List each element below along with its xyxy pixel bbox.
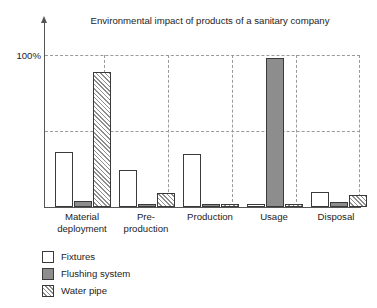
bar-material-deployment-water-pipe xyxy=(93,72,111,207)
category-label-production: Production xyxy=(174,211,246,223)
category-label-line: Pre- xyxy=(110,211,182,223)
legend-item-fixtures: Fixtures xyxy=(42,248,130,265)
category-label-line: Production xyxy=(174,211,246,223)
bar-production-water-pipe xyxy=(221,204,239,207)
y-tick-label-100: 100% xyxy=(16,50,41,61)
bar-production-fixtures xyxy=(183,154,201,207)
chart-legend: Fixtures Flushing system Water pipe xyxy=(42,248,130,299)
bar-disposal-flushing-system xyxy=(330,202,348,207)
legend-label-fixtures: Fixtures xyxy=(61,251,95,262)
category-label-line: Disposal xyxy=(300,211,372,223)
bar-pre-production-water-pipe xyxy=(157,193,175,207)
bar-material-deployment-fixtures xyxy=(55,152,73,207)
legend-swatch-water-pipe-icon xyxy=(42,285,54,297)
bar-material-deployment-flushing-system xyxy=(74,201,92,207)
legend-item-flushing-system: Flushing system xyxy=(42,265,130,282)
bar-disposal-water-pipe xyxy=(349,195,367,207)
legend-label-flushing-system: Flushing system xyxy=(61,268,130,279)
chart-title: Environmental impact of products of a sa… xyxy=(60,15,360,27)
legend-label-water-pipe: Water pipe xyxy=(61,285,107,296)
bar-usage-fixtures xyxy=(247,204,265,207)
bar-usage-water-pipe xyxy=(285,204,303,207)
bars-layer xyxy=(45,50,360,207)
legend-item-water-pipe: Water pipe xyxy=(42,282,130,299)
category-label-disposal: Disposal xyxy=(300,211,372,223)
chart-figure: Environmental impact of products of a sa… xyxy=(0,0,377,308)
x-axis-line xyxy=(44,207,361,208)
category-label-material-deployment: Material deployment xyxy=(45,211,119,234)
category-label-line: deployment xyxy=(45,223,119,235)
bar-production-flushing-system xyxy=(202,204,220,207)
bar-pre-production-flushing-system xyxy=(138,204,156,207)
bar-disposal-fixtures xyxy=(311,192,329,207)
legend-swatch-flushing-system-icon xyxy=(42,268,54,280)
category-label-line: Material xyxy=(45,211,119,223)
legend-swatch-fixtures-icon xyxy=(42,251,54,263)
bar-usage-flushing-system xyxy=(266,58,284,207)
category-label-line: production xyxy=(110,223,182,235)
bar-pre-production-fixtures xyxy=(119,170,137,207)
category-label-pre-production: Pre- production xyxy=(110,211,182,234)
